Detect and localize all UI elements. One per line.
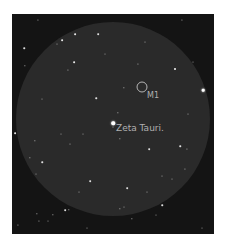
star-icon — [89, 180, 91, 182]
star-icon — [41, 161, 43, 163]
star-icon — [70, 144, 71, 145]
star-icon — [87, 228, 88, 229]
m1-label[interactable]: M1 — [147, 92, 159, 100]
star-map[interactable]: M1 Zeta Tauri. — [12, 14, 214, 234]
field-of-view-circle — [16, 22, 210, 216]
star-icon — [145, 42, 146, 43]
star-icon — [161, 204, 163, 206]
star-icon — [48, 221, 49, 222]
star-icon — [105, 54, 106, 55]
star-icon — [202, 89, 205, 92]
star-icon — [202, 228, 203, 229]
star-icon — [68, 209, 69, 210]
star-icon — [95, 97, 97, 99]
star-icon — [162, 176, 163, 177]
star-icon — [57, 44, 58, 45]
star-icon — [42, 99, 43, 100]
star-icon — [52, 214, 53, 215]
star-icon — [174, 68, 176, 70]
star-icon — [74, 33, 76, 35]
star-icon — [61, 134, 62, 135]
star-icon — [126, 187, 128, 189]
star-icon — [37, 19, 38, 20]
star-icon — [172, 179, 173, 180]
star-icon — [131, 218, 132, 219]
star-icon — [38, 220, 39, 221]
star-icon — [79, 192, 80, 193]
star-icon — [83, 134, 84, 135]
star-icon — [156, 215, 157, 216]
star-icon — [188, 114, 189, 115]
star-icon — [147, 192, 148, 193]
star-icon — [179, 145, 181, 147]
star-icon — [64, 209, 66, 211]
star-icon — [97, 33, 99, 35]
zeta-tauri-label[interactable]: Zeta Tauri. — [116, 124, 164, 133]
m1-marker-icon[interactable] — [137, 82, 148, 93]
star-icon — [73, 61, 75, 63]
star-icon — [113, 127, 114, 128]
star-icon — [181, 19, 182, 20]
star-icon — [36, 174, 37, 175]
star-icon — [61, 39, 63, 41]
star-icon — [193, 62, 194, 63]
star-icon — [14, 132, 16, 134]
star-icon — [36, 213, 37, 214]
star-icon — [24, 65, 25, 66]
star-icon — [148, 148, 150, 150]
star-icon — [23, 47, 25, 49]
star-icon — [17, 224, 18, 225]
star-icon — [124, 207, 125, 208]
star-icon — [111, 121, 115, 125]
